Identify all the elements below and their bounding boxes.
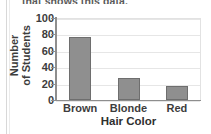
y-tick-mark: [51, 18, 56, 19]
x-tick-label: Red: [166, 102, 187, 114]
bar-chart-figure: Number of Students 020406080100 BrownBlo…: [0, 14, 211, 134]
y-tick-mark: [51, 34, 56, 35]
plot-area: [56, 18, 201, 100]
x-axis-title: Hair Color: [56, 115, 201, 127]
y-tick-mark: [51, 51, 56, 52]
bar-red: [166, 86, 188, 100]
x-tick-label: Blonde: [110, 102, 147, 114]
x-axis-line: [55, 100, 201, 101]
gridline: [56, 19, 200, 20]
y-tick-mark: [51, 100, 56, 101]
bar-blonde: [118, 78, 140, 100]
y-axis-tick-labels: 020406080100: [28, 18, 54, 100]
y-axis-line: [55, 17, 57, 101]
bar-brown: [69, 37, 91, 100]
worksheet-prompt-text: that shows this data.: [22, 0, 202, 4]
y-axis-title-line1: Number: [8, 35, 20, 77]
y-tick-mark: [51, 67, 56, 68]
x-axis-tick-labels: BrownBlondeRed: [56, 102, 201, 116]
y-tick-mark: [51, 84, 56, 85]
x-tick-label: Brown: [63, 102, 97, 114]
